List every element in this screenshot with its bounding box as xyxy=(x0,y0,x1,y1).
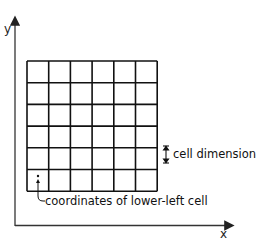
cell-dimension-marker xyxy=(163,146,169,163)
x-axis-label: x xyxy=(220,227,227,241)
lower-left-pointer xyxy=(36,175,45,201)
y-axis-label: y xyxy=(4,22,11,36)
cell-grid xyxy=(27,61,157,191)
y-axis: y xyxy=(4,18,15,226)
grid-diagram: y x cell dimension coordinates of lower-… xyxy=(0,0,256,242)
cell-dimension-label: cell dimension xyxy=(173,147,256,161)
x-axis: x xyxy=(15,226,232,242)
lower-left-label: coordinates of lower-left cell xyxy=(45,194,208,208)
